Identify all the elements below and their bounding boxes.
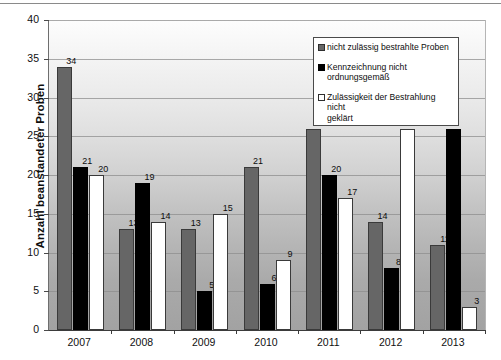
bar-value-label: 21	[253, 156, 263, 166]
y-tick-label: 20	[0, 168, 39, 180]
bar	[368, 222, 383, 331]
y-tick-label: 5	[0, 284, 39, 296]
bar-value-label: 9	[287, 249, 292, 259]
legend-label-2-line1: Zulässigkeit der Bestrahlung nicht	[327, 92, 435, 113]
y-tick-label: 40	[0, 13, 39, 25]
y-tick-mark	[44, 291, 49, 292]
gray-swatch-icon	[318, 44, 325, 51]
gridline	[49, 253, 485, 254]
y-tick-mark	[44, 136, 49, 137]
y-tick-label: 30	[0, 91, 39, 103]
bar	[446, 129, 461, 331]
black-swatch-icon	[318, 64, 325, 71]
x-tick-mark	[111, 330, 112, 334]
bar	[260, 284, 275, 331]
x-tick-mark	[485, 330, 486, 334]
x-tick-mark	[298, 330, 299, 334]
bar-value-label: 15	[223, 203, 233, 213]
bar	[276, 260, 291, 330]
bar-value-label: 21	[82, 156, 92, 166]
y-tick-label: 0	[0, 323, 39, 335]
legend-label-0: nicht zulässig bestrahlte Proben	[327, 42, 449, 53]
bar	[89, 175, 104, 330]
legend-item-1: Kennzeichnung nicht ordnungsgemäß	[318, 62, 454, 83]
x-tick-mark	[236, 330, 237, 334]
legend-label-2-line2: geklärt	[327, 113, 353, 123]
bar-value-label: 14	[378, 211, 388, 221]
x-tick-label: 2010	[254, 336, 277, 348]
bar	[119, 229, 134, 330]
legend-item-0: nicht zulässig bestrahlte Proben	[318, 42, 454, 53]
bar	[57, 67, 72, 331]
scan-artifact-strip	[0, 354, 501, 360]
bar-value-label: 19	[144, 172, 154, 182]
y-tick-label: 25	[0, 129, 39, 141]
bar-value-label: 3	[474, 296, 479, 306]
legend-label-0-line1: nicht zulässig bestrahlte Proben	[327, 42, 449, 52]
x-tick-label: 2007	[67, 336, 90, 348]
x-tick-mark	[360, 330, 361, 334]
bar	[400, 129, 415, 331]
gridline	[49, 175, 485, 176]
legend-label-1: Kennzeichnung nicht ordnungsgemäß	[327, 62, 407, 83]
bar	[384, 268, 399, 330]
y-tick-mark	[44, 330, 49, 331]
bar	[151, 222, 166, 331]
x-tick-label: 2012	[379, 336, 402, 348]
gridline	[49, 136, 485, 137]
bar-value-label: 14	[160, 211, 170, 221]
bar	[73, 167, 88, 330]
x-tick-label: 2011	[317, 336, 340, 348]
bar	[181, 229, 196, 330]
y-tick-label: 15	[0, 207, 39, 219]
bar	[197, 291, 212, 330]
figure-top-rule	[0, 3, 501, 4]
bar-value-label: 17	[347, 187, 357, 197]
y-tick-mark	[44, 253, 49, 254]
bar	[322, 175, 337, 330]
legend-label-2: Zulässigkeit der Bestrahlung nicht geklä…	[327, 92, 454, 124]
bar	[135, 183, 150, 330]
gridline	[49, 214, 485, 215]
legend-label-1-line2: ordnungsgemäß	[327, 72, 390, 82]
x-tick-label: 2013	[441, 336, 464, 348]
bar-value-label: 13	[191, 218, 201, 228]
x-tick-mark	[423, 330, 424, 334]
y-tick-label: 35	[0, 52, 39, 64]
bar	[338, 198, 353, 330]
y-tick-mark	[44, 214, 49, 215]
bar-value-label: 34	[66, 56, 76, 66]
legend-label-1-line1: Kennzeichnung nicht	[327, 62, 407, 72]
chart-figure: Anzahl beanstandeter Proben 051015202530…	[0, 0, 501, 360]
gridline	[49, 20, 485, 21]
bar	[430, 245, 445, 330]
x-tick-mark	[174, 330, 175, 334]
y-tick-label: 10	[0, 246, 39, 258]
bar	[244, 167, 259, 330]
white-swatch-icon	[318, 94, 325, 101]
x-tick-label: 2008	[130, 336, 153, 348]
bar	[462, 307, 477, 330]
y-tick-mark	[44, 175, 49, 176]
chart-legend: nicht zulässig bestrahlte Proben Kennzei…	[313, 37, 459, 126]
x-tick-label: 2009	[192, 336, 215, 348]
bar	[213, 214, 228, 330]
y-tick-mark	[44, 20, 49, 21]
y-tick-mark	[44, 98, 49, 99]
bar	[306, 129, 321, 331]
legend-item-2: Zulässigkeit der Bestrahlung nicht geklä…	[318, 92, 454, 124]
bar-value-label: 20	[98, 164, 108, 174]
y-tick-mark	[44, 59, 49, 60]
bar-value-label: 20	[331, 164, 341, 174]
